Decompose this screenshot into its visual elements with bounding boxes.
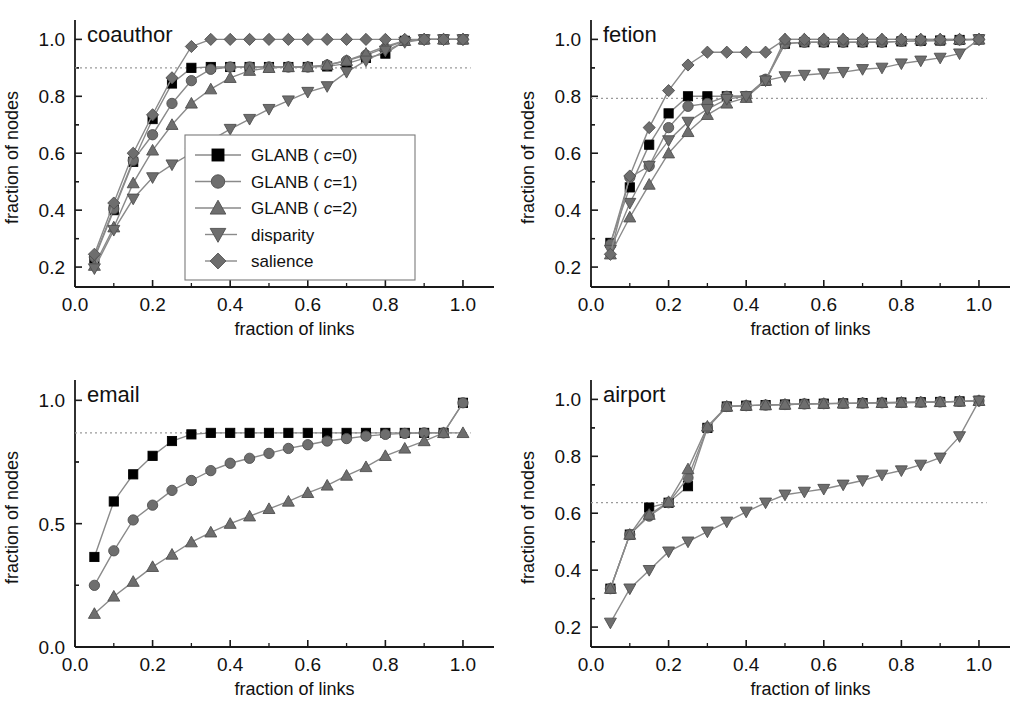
- data-point: [166, 160, 178, 171]
- figure-root: 0.00.20.40.60.81.00.20.40.60.81.0coautho…: [0, 0, 1032, 719]
- series-airport-1: [605, 396, 984, 594]
- series-line: [610, 401, 979, 589]
- data-point: [263, 503, 275, 514]
- data-point: [108, 590, 120, 601]
- y-tick-label: 0.4: [39, 200, 66, 221]
- y-tick-label: 0.2: [39, 257, 65, 278]
- panel-fetion: 0.00.20.40.60.81.00.20.40.60.81.0fetionf…: [516, 0, 1032, 359]
- series-airport-0: [606, 396, 984, 593]
- data-point: [128, 515, 138, 525]
- data-point: [147, 130, 157, 140]
- data-point: [244, 510, 256, 521]
- panel-title-email: email: [87, 382, 140, 407]
- y-axis-title: fraction of nodes: [518, 91, 538, 224]
- data-point: [341, 33, 353, 45]
- x-tick-label: 0.4: [217, 654, 244, 675]
- data-point: [624, 198, 636, 209]
- x-axis-title: fraction of links: [234, 679, 354, 699]
- plot-email: 0.00.20.40.60.81.00.00.51.0emailfraction…: [0, 360, 516, 719]
- data-point: [187, 63, 196, 72]
- series-fetion-4: [604, 33, 985, 260]
- data-point: [109, 546, 119, 556]
- series-fetion-2: [604, 33, 985, 259]
- data-point: [664, 109, 673, 118]
- data-point: [302, 487, 314, 498]
- y-tick-label: 1.0: [39, 390, 65, 411]
- y-tick-label: 0.6: [39, 143, 65, 164]
- data-point: [302, 33, 314, 45]
- y-tick-label: 0.8: [555, 446, 581, 467]
- series-line: [610, 401, 979, 589]
- data-point: [683, 92, 692, 101]
- data-point: [224, 72, 236, 83]
- data-point: [321, 33, 333, 45]
- data-point: [244, 114, 256, 125]
- x-tick-label: 1.0: [450, 654, 476, 675]
- data-point: [206, 465, 216, 475]
- data-point: [663, 122, 673, 132]
- data-point: [167, 98, 177, 108]
- data-point: [643, 179, 655, 190]
- plot-airport: 0.00.20.40.60.81.00.20.40.60.81.0airport…: [516, 360, 1032, 719]
- legend: GLANB ( c=0)GLANB ( c=1)GLANB ( c=2)disp…: [185, 135, 415, 280]
- data-point: [185, 536, 197, 547]
- data-point: [682, 537, 694, 548]
- data-point: [760, 498, 772, 509]
- data-point: [167, 436, 176, 445]
- series-line: [610, 39, 979, 254]
- data-point: [205, 83, 217, 94]
- data-point: [779, 490, 791, 501]
- data-point: [127, 194, 139, 205]
- data-point: [399, 442, 411, 453]
- series-line: [94, 403, 463, 557]
- legend-label: GLANB ( c=1): [251, 173, 357, 192]
- data-point: [166, 549, 178, 560]
- data-point: [186, 475, 196, 485]
- data-point: [264, 448, 274, 458]
- panel-title-airport: airport: [603, 382, 665, 407]
- y-tick-label: 1.0: [555, 29, 581, 50]
- x-tick-label: 0.2: [139, 654, 165, 675]
- data-point: [206, 428, 215, 437]
- data-point: [302, 87, 314, 98]
- legend-label: GLANB ( c=2): [251, 199, 357, 218]
- data-point: [127, 576, 139, 587]
- data-point: [663, 85, 675, 97]
- data-point: [89, 580, 99, 590]
- data-point: [225, 458, 235, 468]
- x-axis-title: fraction of links: [750, 319, 870, 339]
- data-point: [701, 46, 713, 58]
- data-point: [264, 428, 273, 437]
- x-tick-label: 0.6: [811, 294, 837, 315]
- legend-marker-square: [212, 149, 224, 161]
- data-point: [624, 584, 636, 595]
- x-tick-label: 0.4: [217, 294, 244, 315]
- x-tick-label: 0.8: [888, 294, 914, 315]
- data-point: [225, 62, 235, 72]
- series-fetion-3: [604, 35, 985, 256]
- data-point: [934, 453, 946, 464]
- data-point: [360, 33, 372, 45]
- data-point: [205, 33, 217, 45]
- x-tick-label: 1.0: [966, 294, 992, 315]
- data-point: [185, 40, 197, 52]
- data-point: [263, 104, 275, 115]
- y-tick-label: 0.6: [555, 143, 581, 164]
- y-tick-label: 0.6: [555, 503, 581, 524]
- data-point: [303, 440, 313, 450]
- y-tick-label: 0.2: [555, 617, 581, 638]
- data-point: [90, 552, 99, 561]
- data-point: [380, 429, 390, 439]
- data-point: [282, 96, 294, 107]
- data-point: [224, 124, 236, 135]
- data-point: [721, 46, 733, 58]
- panel-title-fetion: fetion: [603, 22, 657, 47]
- legend-marker-circle: [211, 175, 224, 188]
- data-point: [604, 618, 616, 629]
- panel-airport: 0.00.20.40.60.81.00.20.40.60.81.0airport…: [516, 360, 1032, 719]
- x-axis-title: fraction of links: [750, 679, 870, 699]
- plot-fetion: 0.00.20.40.60.81.00.20.40.60.81.0fetionf…: [516, 0, 1032, 359]
- x-tick-label: 0.4: [733, 294, 760, 315]
- y-tick-label: 0.4: [555, 200, 582, 221]
- data-point: [224, 33, 236, 45]
